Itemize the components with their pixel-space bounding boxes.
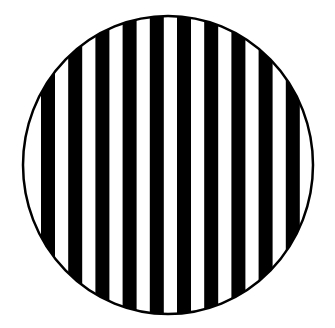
stripe xyxy=(95,14,109,316)
stripe xyxy=(177,14,191,316)
stripe xyxy=(231,14,245,316)
striped-circle-figure xyxy=(0,0,335,328)
stripe xyxy=(204,14,218,316)
stripe xyxy=(150,14,164,316)
stripe xyxy=(68,14,82,316)
stripe xyxy=(123,14,137,316)
